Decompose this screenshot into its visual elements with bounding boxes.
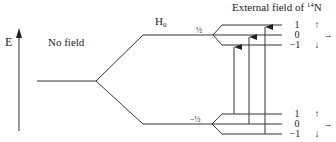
transitions bbox=[234, 27, 265, 134]
spin-right-icon: → bbox=[324, 30, 333, 40]
spin-down-icon: ↓ bbox=[315, 39, 320, 50]
arrow-up-icon bbox=[16, 28, 22, 38]
spin-up-icon: ↑ bbox=[315, 108, 320, 119]
m-label: −1 bbox=[290, 128, 301, 139]
lower-sublevel-1 bbox=[212, 114, 282, 124]
upper-sublevel-1 bbox=[213, 25, 282, 35]
upper-electron-level bbox=[96, 35, 213, 81]
m-label: −1 bbox=[290, 39, 301, 50]
upper-hyperfine-levels bbox=[213, 25, 282, 45]
lower-hyperfine-levels bbox=[212, 114, 282, 134]
lower-level-label: −½ bbox=[190, 115, 201, 124]
energy-level-diagram: E No field H0 ½ −½ External field of 14N… bbox=[0, 0, 336, 142]
lower-m-labels: 1 0 −1 ↑ → ↓ bbox=[290, 108, 333, 139]
upper-sublevel-minus1 bbox=[213, 35, 282, 45]
h0-label: H0 bbox=[155, 15, 167, 29]
spin-up-icon: ↑ bbox=[315, 19, 320, 30]
spin-right-icon: → bbox=[324, 119, 333, 129]
spin-down-icon: ↓ bbox=[315, 128, 320, 139]
energy-axis: E bbox=[5, 28, 22, 131]
lower-sublevel-minus1 bbox=[212, 124, 282, 134]
upper-m-labels: 1 0 −1 ↑ → ↓ bbox=[290, 19, 333, 50]
upper-level-label: ½ bbox=[196, 26, 202, 35]
energy-axis-label: E bbox=[5, 35, 12, 49]
no-field-label: No field bbox=[48, 36, 85, 48]
external-field-label: External field of 14N bbox=[232, 1, 322, 13]
